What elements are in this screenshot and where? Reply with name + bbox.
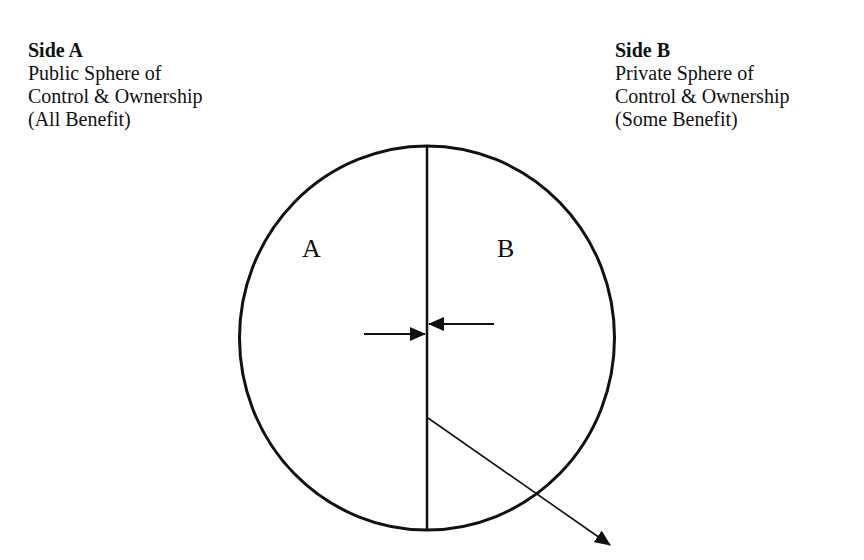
region-label-b: B [497, 236, 514, 262]
outward-arrow [428, 418, 610, 545]
region-label-a: A [302, 236, 321, 262]
sphere-diagram [0, 0, 864, 560]
